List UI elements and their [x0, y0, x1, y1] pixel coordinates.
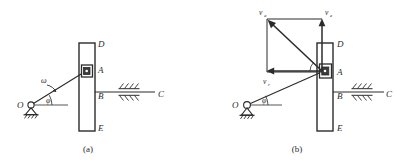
- label-a-b: A: [336, 67, 343, 77]
- vertical-bar-de: [79, 43, 95, 131]
- label-a-a: A: [97, 65, 104, 75]
- crank-oa: [31, 71, 86, 105]
- vector-angle-arc-b: [310, 63, 314, 71]
- label-omega-a: ω: [41, 76, 47, 85]
- guide-hatch-lower-a: [119, 95, 140, 100]
- vector-label-vr-b: v r: [263, 77, 270, 87]
- label-phi-b: φ: [262, 96, 267, 105]
- label-o-b: O: [232, 100, 239, 110]
- slider-pin-hole-a-b: [324, 70, 327, 73]
- vector-label-ve-subscript-b: e: [330, 13, 333, 18]
- vertical-bar-de-b: [317, 43, 333, 131]
- support-triangle-o-b: [242, 108, 253, 115]
- label-e-a: E: [97, 123, 104, 133]
- label-b-b: B: [337, 91, 343, 101]
- label-c-b: C: [386, 89, 393, 99]
- label-e-b: E: [336, 123, 343, 133]
- caption-a: (a): [83, 144, 93, 154]
- vector-label-va-b: v a: [259, 8, 267, 18]
- vector-label-ve-symbol-b: v: [325, 8, 329, 17]
- label-b-a: B: [98, 91, 104, 101]
- figure-canvas: D A B E C O ω φ (a): [0, 0, 396, 165]
- guide-hatch-upper-b: [352, 84, 373, 89]
- label-d-a: D: [97, 39, 105, 49]
- vector-va-line-b: [271, 23, 322, 71]
- label-phi-a: φ: [46, 96, 51, 105]
- label-o-a: O: [17, 100, 24, 110]
- panel-a: D A B E C O ω φ (a): [17, 39, 165, 154]
- caption-b: (b): [292, 144, 303, 154]
- vector-label-vr-symbol-b: v: [263, 77, 267, 86]
- panel-b: v a v e v r D A B E C O φ (b): [232, 8, 393, 154]
- vector-label-va-subscript-b: a: [264, 13, 267, 18]
- vector-label-ve-b: v e: [325, 8, 333, 18]
- slider-pin-hole-a: [85, 70, 88, 73]
- support-triangle-o-a: [26, 108, 37, 115]
- vector-vr-arrowhead-b: [267, 68, 275, 75]
- vector-label-vr-subscript-b: r: [268, 82, 270, 87]
- guide-hatch-upper-a: [119, 84, 140, 89]
- crank-oa-b: [247, 71, 324, 105]
- vector-ve-arrowhead-b: [319, 19, 326, 27]
- label-c-a: C: [158, 89, 165, 99]
- mechanism-figure: D A B E C O ω φ (a): [0, 0, 396, 165]
- guide-hatch-lower-b: [352, 95, 373, 100]
- vector-label-va-symbol-b: v: [259, 8, 263, 17]
- label-d-b: D: [336, 39, 344, 49]
